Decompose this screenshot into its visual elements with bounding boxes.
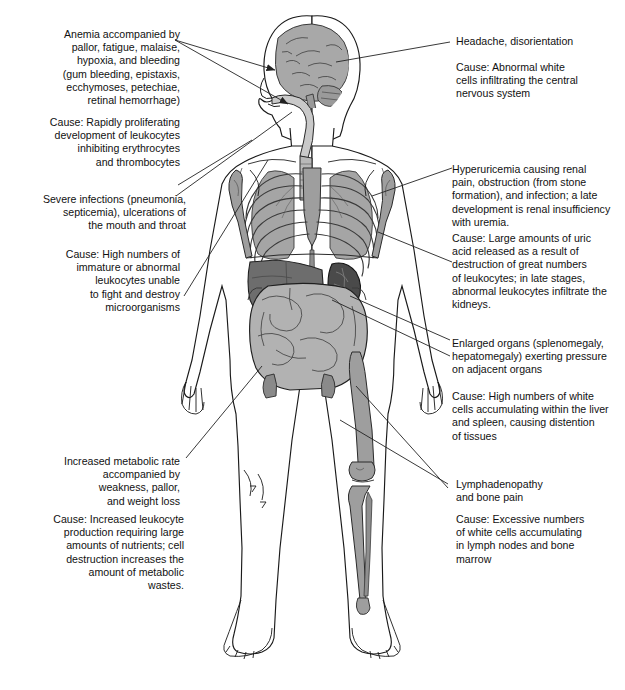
lead-headache: [336, 42, 450, 62]
lead-immature: [184, 160, 268, 296]
lead-anemia-b: [175, 40, 288, 104]
lead-organs-b: [332, 300, 450, 356]
lead-lymph-b: [356, 386, 448, 488]
lead-organs-a: [350, 296, 450, 340]
lead-uricacid: [378, 232, 452, 262]
leader-lines: [0, 0, 625, 690]
diagram-canvas: Anemia accompanied by pallor, fatigue, m…: [0, 0, 625, 690]
lead-anemia-a: [175, 40, 275, 70]
lead-proliferation: [178, 140, 252, 185]
lead-infections: [176, 112, 292, 196]
lead-metabolic: [186, 366, 262, 458]
lead-hyperuricemia: [372, 168, 452, 196]
lead-lymph-a: [340, 420, 448, 484]
